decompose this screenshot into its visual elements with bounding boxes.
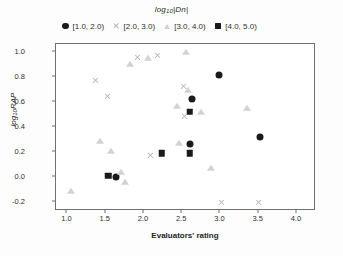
cross-marker-icon xyxy=(113,23,120,30)
square-marker-icon xyxy=(215,23,222,30)
y-axis-tick-mark xyxy=(52,75,55,76)
data-point-s2-1 xyxy=(96,137,104,143)
legend-item-label: [3.0, 4.0) xyxy=(174,22,206,31)
data-point-s1-0 xyxy=(104,93,111,100)
data-point-s0-2 xyxy=(186,141,193,148)
x-axis-tick-mark xyxy=(219,210,220,213)
data-point-s2-5 xyxy=(126,61,134,67)
data-point-s3-0 xyxy=(105,173,112,180)
data-point-s1-6 xyxy=(147,152,154,159)
legend-item-2: [3.0, 4.0) xyxy=(164,22,206,31)
scatter-plot-figure: log10|Dn| [1.0, 2.0)[2.0, 3.0)[3.0, 4.0)… xyxy=(0,0,343,256)
y-axis-tick-mark xyxy=(52,125,55,126)
data-point-s2-2 xyxy=(117,169,125,175)
data-point-s1-1 xyxy=(92,77,99,84)
data-point-s1-3 xyxy=(154,52,161,59)
x-axis-tick-label: 2.0 xyxy=(126,214,160,223)
x-axis-tick-mark xyxy=(66,210,67,213)
x-axis-tick-mark xyxy=(295,210,296,213)
y-axis-tick-mark xyxy=(52,176,55,177)
data-point-s2-0 xyxy=(67,188,75,194)
data-point-s3-2 xyxy=(187,150,194,157)
legend-title-base: log xyxy=(155,5,166,14)
data-point-s2-9 xyxy=(182,48,190,54)
legend-item-1: [2.0, 3.0) xyxy=(113,22,155,31)
legend-item-0: [1.0, 2.0) xyxy=(62,22,104,31)
x-axis-tick-mark xyxy=(257,210,258,213)
legend-item-label: [4.0, 5.0) xyxy=(225,22,257,31)
data-point-s2-11 xyxy=(197,108,205,114)
x-axis-tick-label: 1.5 xyxy=(88,214,122,223)
x-axis-tick-label: 3.5 xyxy=(241,214,275,223)
legend-item-label: [2.0, 3.0) xyxy=(124,22,156,31)
y-axis-tick-label: 1.0 xyxy=(0,46,25,55)
data-point-s2-3 xyxy=(121,179,129,185)
y-axis-tick-mark xyxy=(52,150,55,151)
x-axis-tick-mark xyxy=(142,210,143,213)
x-axis-label: Evaluators' rating xyxy=(55,231,315,240)
x-axis-tick-label: 2.5 xyxy=(164,214,198,223)
y-axis-tick-mark xyxy=(52,201,55,202)
data-point-s3-1 xyxy=(158,150,165,157)
data-point-s0-1 xyxy=(189,96,196,103)
legend: [1.0, 2.0)[2.0, 3.0)[3.0, 4.0)[4.0, 5.0) xyxy=(62,19,337,33)
y-axis-tick-label: 0.0 xyxy=(0,172,25,181)
data-point-s2-4 xyxy=(107,147,115,153)
y-axis-tick-label: 0.2 xyxy=(0,146,25,155)
y-axis-tick-mark xyxy=(52,100,55,101)
data-point-s3-3 xyxy=(187,109,194,116)
legend-item-label: [1.0, 2.0) xyxy=(73,22,105,31)
plot-area xyxy=(55,43,315,210)
x-axis-tick-mark xyxy=(104,210,105,213)
legend-title: log10|Dn| xyxy=(0,5,343,14)
legend-title-tail: |Dn| xyxy=(173,5,188,14)
data-point-s2-8 xyxy=(175,140,183,146)
y-axis-label-subscript: 10 xyxy=(12,109,18,116)
legend-item-3: [4.0, 5.0) xyxy=(215,22,257,31)
data-point-s0-3 xyxy=(215,72,222,79)
x-axis-tick-mark xyxy=(181,210,182,213)
y-axis-tick-mark xyxy=(52,50,55,51)
data-point-s1-2 xyxy=(134,54,141,61)
y-axis-label-tail: RAP xyxy=(9,93,18,109)
data-point-s2-7 xyxy=(173,102,181,108)
x-axis-tick-label: 1.0 xyxy=(49,214,83,223)
data-point-s1-7 xyxy=(218,199,225,206)
x-axis-tick-label: 4.0 xyxy=(279,214,313,223)
data-point-s2-13 xyxy=(207,165,215,171)
y-axis-label: log10RAP xyxy=(9,75,18,145)
data-points-layer xyxy=(56,44,314,209)
data-point-s1-8 xyxy=(255,199,262,206)
data-point-s0-4 xyxy=(257,133,264,140)
circle-marker-icon xyxy=(62,23,69,30)
data-point-s2-10 xyxy=(184,87,192,93)
data-point-s2-6 xyxy=(144,54,152,60)
triangle-marker-icon xyxy=(164,24,170,29)
y-axis-label-base: log xyxy=(9,116,18,127)
y-axis-tick-label: -0.2 xyxy=(0,197,25,206)
data-point-s2-12 xyxy=(243,105,251,111)
x-axis-tick-label: 3.0 xyxy=(202,214,236,223)
